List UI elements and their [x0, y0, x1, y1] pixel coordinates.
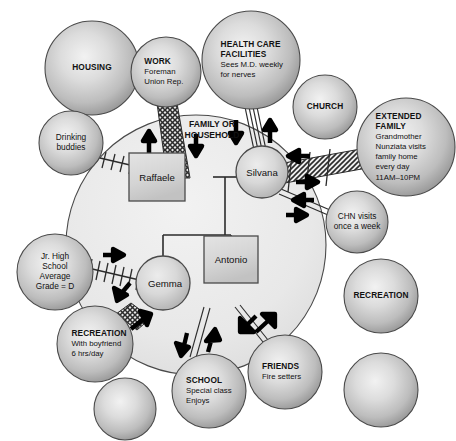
sphere-label-line: Nunziata visits	[376, 142, 426, 151]
sphere-label-line: SCHOOL	[186, 375, 222, 385]
sphere-label-line: Average	[40, 271, 71, 281]
sphere-label-line: HEALTH CARE	[221, 39, 281, 49]
member-silvana[interactable]: Silvana	[236, 146, 288, 198]
sphere-shape	[344, 353, 418, 427]
sphere-label-line: RECREATION	[353, 290, 408, 300]
system-sphere-church[interactable]: CHURCH	[293, 75, 357, 139]
system-sphere-jr-high-school[interactable]: Jr. HighSchoolAverageGrade = D	[17, 234, 93, 310]
sphere-label-line: Drinking	[56, 132, 87, 142]
system-sphere-recreation-right[interactable]: RECREATION	[344, 259, 418, 333]
member-antonio-label: Antonio	[215, 254, 248, 265]
system-sphere-blank-bottom-right[interactable]	[344, 353, 418, 427]
sphere-label-line: Special class	[186, 386, 232, 395]
member-raffaele[interactable]: Raffaele	[129, 153, 185, 201]
sphere-label-line: WORK	[144, 56, 171, 66]
ecomap-diagram: Raffaele Silvana Gemma Antonio FAMILY OR…	[0, 0, 456, 441]
sphere-label-line: 11AM–10PM	[376, 173, 421, 182]
sphere-label-line: Foreman	[144, 67, 175, 76]
sphere-label-line: Jr. High	[41, 251, 70, 261]
sphere-label-line: EXTENDED	[376, 111, 422, 121]
system-sphere-housing[interactable]: HOUSING	[45, 21, 139, 115]
sphere-label-line: Grandmother	[376, 132, 422, 141]
sphere-label-line: Sees M.D. weekly	[221, 60, 283, 69]
sphere-label-line: buddies	[56, 142, 85, 152]
sphere-label-line: FRIENDS	[262, 361, 299, 371]
system-sphere-blank-bottom-left[interactable]	[94, 378, 156, 440]
sphere-label-line: Grade = D	[36, 281, 75, 291]
sphere-label-line: for nerves	[221, 70, 256, 79]
sphere-shape	[94, 378, 156, 440]
system-sphere-health-care-facilities[interactable]: HEALTH CAREFACILITIESSees M.D. weeklyfor…	[202, 11, 300, 109]
sphere-label-line: HOUSING	[72, 62, 111, 72]
member-antonio[interactable]: Antonio	[204, 236, 258, 283]
sphere-label-line: FAMILY	[376, 121, 407, 131]
sphere-label-line: family home	[376, 152, 418, 161]
svg-text:HOUSEHOLD: HOUSEHOLD	[185, 130, 240, 140]
system-sphere-school[interactable]: SCHOOLSpecial classEnjoys	[172, 354, 246, 428]
household-label: FAMILY OR HOUSEHOLD	[185, 119, 240, 140]
sphere-label-line: With boyfriend	[71, 339, 121, 348]
system-sphere-extended-family[interactable]: EXTENDEDFAMILYGrandmotherNunziata visits…	[357, 98, 455, 196]
member-gemma[interactable]: Gemma	[136, 256, 190, 310]
sphere-label-line: School	[42, 261, 68, 271]
sphere-label-line: 6 hrs/day	[71, 349, 103, 358]
member-gemma-label: Gemma	[148, 278, 183, 289]
system-sphere-work[interactable]: WORKForemanUnion Rep.	[131, 37, 201, 107]
ecomap-canvas: Raffaele Silvana Gemma Antonio FAMILY OR…	[0, 0, 456, 441]
system-sphere-friends[interactable]: FRIENDSFire setters	[248, 335, 322, 409]
sphere-label-line: Fire setters	[262, 372, 301, 381]
system-sphere-chn-visits[interactable]: CHN visitsonce a week	[326, 191, 388, 253]
sphere-label-line: CHURCH	[307, 101, 344, 111]
svg-text:FAMILY OR: FAMILY OR	[189, 119, 236, 129]
member-silvana-label: Silvana	[246, 167, 278, 178]
system-sphere-drinking-buddies[interactable]: Drinkingbuddies	[39, 111, 103, 175]
sphere-label-line: Enjoys	[186, 396, 210, 405]
sphere-label-line: every day	[376, 162, 410, 171]
system-sphere-recreation-boyfriend[interactable]: RECREATIONWith boyfriend6 hrs/day	[57, 306, 133, 382]
sphere-label-line: CHN visits	[338, 211, 377, 221]
sphere-label-line: Union Rep.	[144, 77, 183, 86]
sphere-label-line: FACILITIES	[221, 49, 267, 59]
sphere-label-line: once a week	[334, 221, 381, 231]
member-raffaele-label: Raffaele	[139, 172, 175, 183]
sphere-label-line: RECREATION	[71, 328, 126, 338]
